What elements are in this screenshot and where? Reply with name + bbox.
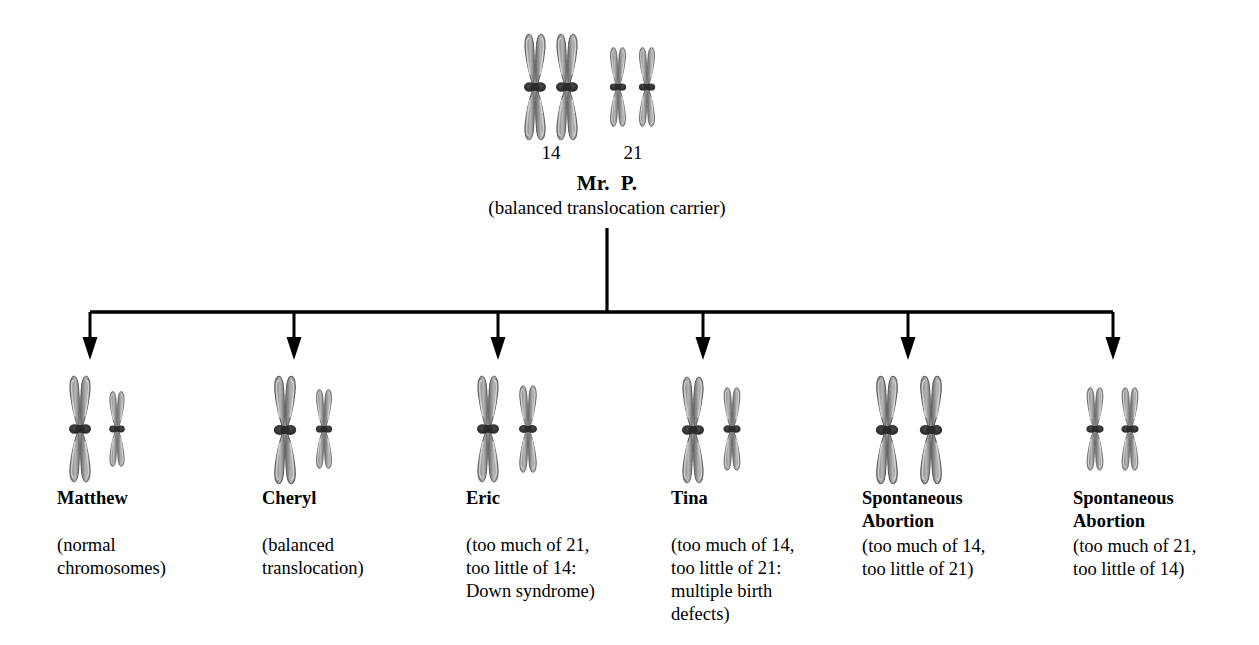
child-name-eric: Eric bbox=[466, 487, 666, 510]
parent-name: Mr. P. bbox=[507, 172, 707, 194]
child-description-tina: (too much of 14, too little of 21: multi… bbox=[671, 534, 871, 627]
child-block-cheryl: Cheryl (balanced translocation) bbox=[262, 487, 462, 580]
child-block-tina: Tina (too much of 14, too little of 21: … bbox=[671, 487, 871, 626]
child-description-eric: (too much of 21, too little of 14: Down … bbox=[466, 534, 666, 603]
child-arrow-3 bbox=[491, 312, 506, 360]
chromosome-number-14: 14 bbox=[515, 143, 587, 163]
child-name-matthew: Matthew bbox=[57, 487, 257, 510]
child-block-abortion-1: Spontaneous Abortion (too much of 14, to… bbox=[862, 487, 1062, 581]
child-arrow-1 bbox=[83, 312, 98, 360]
child-arrow-2 bbox=[287, 312, 302, 360]
parent-chromosome-group bbox=[524, 34, 655, 140]
chromosome-number-21: 21 bbox=[600, 143, 666, 163]
pedigree-connectors bbox=[83, 228, 1121, 360]
child-description-abortion-1: (too much of 14, too little of 21) bbox=[862, 535, 1062, 581]
child-chromosomes-matthew bbox=[69, 376, 125, 482]
parent-chromosome-14b bbox=[556, 34, 578, 140]
child-description-matthew: (normal chromosomes) bbox=[57, 534, 257, 580]
child-name-cheryl: Cheryl bbox=[262, 487, 462, 510]
parent-chromosome-21b bbox=[639, 48, 655, 127]
child-name-abortion-1: Spontaneous Abortion bbox=[862, 487, 1062, 532]
child-description-abortion-2: (too much of 21, too little of 14) bbox=[1073, 535, 1259, 581]
child-name-abortion-2: Spontaneous Abortion bbox=[1073, 487, 1259, 532]
child-block-matthew: Matthew (normal chromosomes) bbox=[57, 487, 257, 580]
child-chromosomes-abortion-2 bbox=[1086, 388, 1138, 471]
child-block-eric: Eric (too much of 21, too little of 14: … bbox=[466, 487, 666, 603]
child-arrow-5 bbox=[901, 312, 916, 360]
child-arrow-4 bbox=[696, 312, 711, 360]
child-chromosomes-eric bbox=[477, 376, 537, 482]
pedigree-diagram: 14 21 Mr. P. (balanced translocation car… bbox=[0, 0, 1259, 645]
child-arrow-6 bbox=[1106, 312, 1121, 360]
parent-chromosome-21a bbox=[610, 48, 626, 127]
parent-subtitle: (balanced translocation carrier) bbox=[457, 198, 757, 218]
child-chromosomes-abortion-1 bbox=[876, 376, 942, 484]
child-chromosomes-tina bbox=[682, 377, 741, 483]
parent-chromosome-14a bbox=[524, 34, 546, 140]
child-name-tina: Tina bbox=[671, 487, 871, 510]
child-block-abortion-2: Spontaneous Abortion (too much of 21, to… bbox=[1073, 487, 1259, 581]
child-chromosomes-cheryl bbox=[274, 376, 332, 484]
child-description-cheryl: (balanced translocation) bbox=[262, 534, 462, 580]
